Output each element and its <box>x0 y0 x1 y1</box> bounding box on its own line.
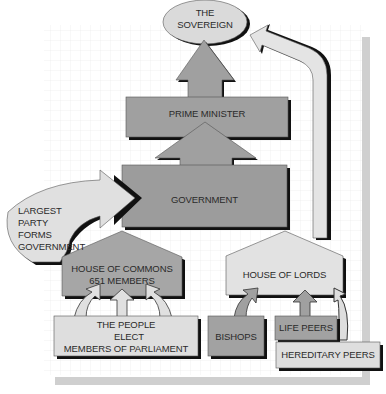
life-peers-label: LIFE PEERS <box>275 322 337 334</box>
house-of-commons-line1: HOUSE OF COMMONS <box>62 263 182 275</box>
house-of-commons-line2: 651 MEMBERS <box>62 275 182 287</box>
the-people-line2: ELECT <box>54 331 204 343</box>
the-people-line1: THE PEOPLE <box>54 319 198 331</box>
government-label: GOVERNMENT <box>122 194 287 206</box>
frame-bottom-band <box>55 377 370 385</box>
largest-party-line3: FORMS <box>18 229 52 241</box>
house-of-lords-label: HOUSE OF LORDS <box>226 269 343 281</box>
sovereign-label-line2: SOVEREIGN <box>165 19 245 31</box>
frame-right-band <box>362 37 370 383</box>
largest-party-line4: GOVERNMENT <box>18 241 85 253</box>
largest-party-line2: PARTY <box>18 217 48 229</box>
hereditary-peers-label: HEREDITARY PEERS <box>276 349 380 361</box>
prime-minister-label: PRIME MINISTER <box>126 108 288 120</box>
largest-party-line1: LARGEST <box>18 205 62 217</box>
bishops-label: BISHOPS <box>208 331 264 343</box>
sovereign-label-line1: THE <box>165 7 245 19</box>
the-people-line3: MEMBERS OF PARLIAMENT <box>54 343 198 355</box>
